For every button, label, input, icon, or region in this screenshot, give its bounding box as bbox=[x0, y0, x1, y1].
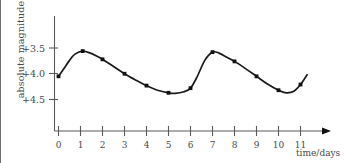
data-point-marker bbox=[255, 74, 259, 78]
y-axis-ticks: +3.5 +4.0 +4.5 bbox=[22, 43, 58, 106]
data-point-marker bbox=[211, 50, 215, 54]
data-point-marker bbox=[299, 83, 303, 87]
x-tick-label: 1 bbox=[78, 140, 84, 150]
axes bbox=[55, 16, 332, 134]
light-curve-figure: +3.5 +4.0 +4.5 0 1 2 3 4 5 6 7 8 bbox=[0, 0, 344, 163]
data-point-marker bbox=[101, 57, 105, 61]
x-tick-label: 7 bbox=[210, 140, 216, 150]
data-point-marker bbox=[233, 59, 237, 63]
x-tick-label: 3 bbox=[122, 140, 128, 150]
data-point-marker bbox=[277, 88, 281, 92]
data-point-marker bbox=[123, 72, 127, 76]
data-point-marker bbox=[81, 49, 85, 53]
light-curve-line bbox=[59, 51, 308, 93]
x-axis-label: time/days bbox=[296, 148, 340, 158]
x-tick-label: 10 bbox=[273, 140, 285, 150]
data-point-marker bbox=[167, 91, 171, 95]
x-tick-label: 5 bbox=[166, 140, 172, 150]
x-axis-arrowhead bbox=[322, 128, 331, 135]
x-tick-label: 8 bbox=[232, 140, 238, 150]
data-point-marker bbox=[57, 74, 61, 78]
y-axis-label: absolute magnitude bbox=[15, 0, 26, 106]
x-tick-label: 9 bbox=[254, 140, 260, 150]
data-point-marker bbox=[189, 86, 193, 90]
x-tick-label: 6 bbox=[188, 140, 194, 150]
chart-plot-area: +3.5 +4.0 +4.5 0 1 2 3 4 5 6 7 8 bbox=[0, 0, 344, 163]
x-tick-label: 2 bbox=[100, 140, 106, 150]
x-tick-label: 4 bbox=[144, 140, 150, 150]
x-tick-label: 0 bbox=[56, 140, 62, 150]
data-point-marker bbox=[145, 84, 149, 88]
x-axis-ticks: 0 1 2 3 4 5 6 7 8 9 10 11 bbox=[56, 126, 307, 150]
data-point-markers bbox=[57, 49, 303, 95]
